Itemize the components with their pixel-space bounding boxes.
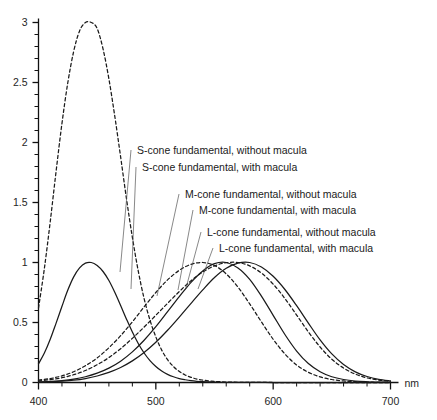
y-tick-label: 0 bbox=[22, 376, 28, 388]
y-tick-label: 1.5 bbox=[13, 196, 28, 208]
y-tick-label: 3 bbox=[22, 16, 28, 28]
y-tick-label: 2.5 bbox=[13, 76, 28, 88]
series-curve-0 bbox=[39, 22, 391, 383]
annotation-label-4: L-cone fundamental, without macula bbox=[207, 226, 376, 238]
annotation-leader-line-3 bbox=[178, 210, 193, 290]
annotation-leader-line-5 bbox=[198, 248, 213, 289]
annotation-leader-line-1 bbox=[131, 167, 136, 289]
annotation-label-0: S-cone fundamental, without macula bbox=[137, 144, 307, 156]
annotation-label-1: S-cone fundamental, with macula bbox=[142, 161, 297, 173]
x-axis-unit-label: nm bbox=[405, 377, 420, 389]
x-tick-label: 500 bbox=[147, 395, 165, 407]
x-tick-label: 400 bbox=[30, 395, 48, 407]
x-tick-label: 700 bbox=[382, 395, 400, 407]
x-tick-label: 600 bbox=[264, 395, 282, 407]
y-tick-label: 0.5 bbox=[13, 316, 28, 328]
annotation-label-2: M-cone fundamental, without macula bbox=[185, 188, 357, 200]
cone-fundamentals-chart: 400500600700nm00.511.522.53S-cone fundam… bbox=[0, 0, 437, 420]
y-tick-label: 1 bbox=[22, 256, 28, 268]
y-tick-label: 2 bbox=[22, 136, 28, 148]
annotation-leader-line-2 bbox=[157, 194, 179, 296]
series-curve-4 bbox=[39, 262, 391, 381]
annotation-label-3: M-cone fundamental, with macula bbox=[199, 204, 356, 216]
annotation-label-5: L-cone fundamental, with macula bbox=[219, 242, 373, 254]
chart-svg: 400500600700nm00.511.522.53S-cone fundam… bbox=[0, 0, 437, 420]
